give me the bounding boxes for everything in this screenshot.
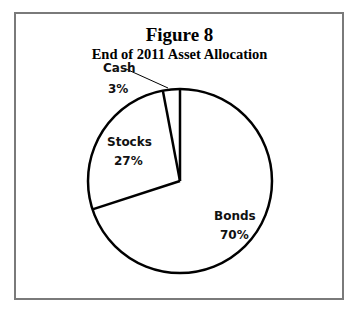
cash-label: Cash bbox=[103, 61, 136, 75]
bonds-label: Bonds bbox=[214, 209, 256, 223]
bonds-pct: 70% bbox=[220, 228, 249, 242]
stocks-pct: 27% bbox=[114, 154, 143, 168]
stocks-label: Stocks bbox=[107, 135, 152, 149]
cash-pct: 3% bbox=[108, 82, 128, 96]
pie-chart: Cash 3% Stocks 27% Bonds 70% bbox=[0, 0, 359, 316]
